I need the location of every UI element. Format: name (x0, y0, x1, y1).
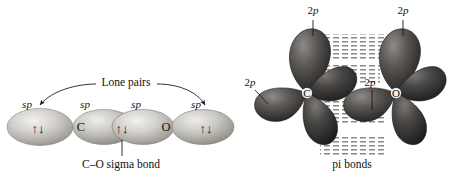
orbital-label-2p-inner-right: 2p (365, 76, 377, 88)
sigma-bond-label: C–O sigma bond (82, 158, 160, 171)
pi-bonds-label: pi bonds (332, 158, 372, 171)
atom-label-carbon-right: C (303, 87, 310, 99)
lone-pairs-label: Lone pairs (102, 76, 151, 89)
sp-label-3: sp (131, 98, 141, 110)
p-glyph: p (312, 4, 319, 16)
atom-label-oxygen-right: O (392, 87, 400, 99)
orbital-figure: Lone pairs ↑↓ ↑↓ ↑↓ C O sp sp sp sp C–O … (0, 0, 456, 176)
orbital-label-2p-left: 2p (245, 76, 257, 88)
electron-pair-sigma: ↑↓ (116, 121, 129, 136)
orbital-label-2p-top-right: 2p (398, 4, 410, 16)
electron-pair-left: ↑↓ (32, 121, 45, 136)
sp-label-1: sp (22, 98, 32, 110)
sp-label-2: sp (80, 98, 90, 110)
atom-label-oxygen-left: O (161, 120, 170, 134)
sp-label-4: sp (191, 98, 201, 110)
electron-pair-right: ↑↓ (200, 121, 213, 136)
atom-label-carbon-left: C (77, 120, 85, 134)
orbital-label-2p-top-left: 2p (308, 4, 320, 16)
figure-canvas: Lone pairs ↑↓ ↑↓ ↑↓ C O sp sp sp sp C–O … (0, 0, 456, 176)
